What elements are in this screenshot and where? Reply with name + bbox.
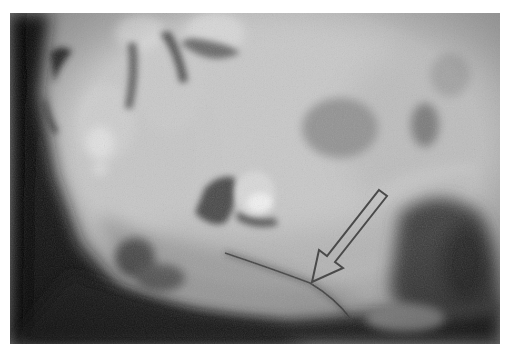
radiograph-image	[10, 13, 500, 344]
radiograph-frame	[10, 13, 500, 344]
